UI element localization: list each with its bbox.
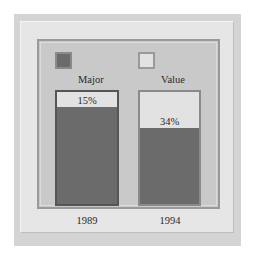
bar-1994-value-label: 34%: [160, 116, 179, 128]
legend-value-line1: Value: [161, 74, 191, 85]
bar-1989: 15%: [55, 90, 119, 206]
bar-1989-value-brands-segment: 15%: [57, 92, 117, 107]
legend-swatch-major-brands: [55, 52, 72, 69]
legend-major-line1: Major: [78, 74, 108, 85]
legend-swatch-value-brands: [138, 52, 155, 69]
x-label-1989: 1989: [57, 215, 117, 226]
bar-1994-major-brands-segment: [140, 128, 199, 204]
x-label-1994: 1994: [140, 215, 200, 226]
bar-1989-value-label: 15%: [77, 95, 96, 107]
bar-1994-value-brands-segment: 34%: [140, 92, 199, 128]
bar-1989-major-brands-segment: [57, 107, 117, 204]
bar-1994: 34%: [138, 90, 201, 206]
